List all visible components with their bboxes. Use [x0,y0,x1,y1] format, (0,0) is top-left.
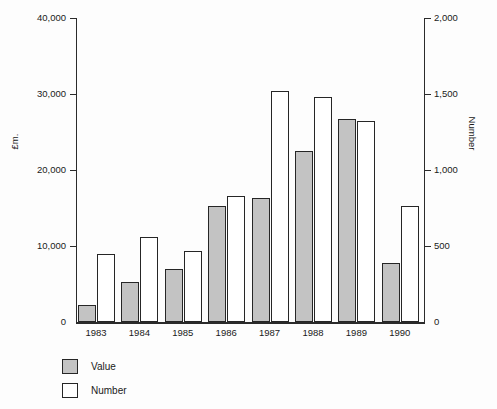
y-axis-left-title: £m. [9,120,20,164]
bar-number-1985 [184,251,202,322]
y-right-tick-1000 [425,170,431,171]
y-left-label-40000: 40,000 [14,13,66,23]
legend-item-number: Number [62,380,127,400]
bar-value-1990 [382,263,400,322]
x-axis-line [76,322,425,324]
bar-value-1986 [208,206,226,322]
bar-number-1987 [271,91,289,322]
y-left-label-0: 0 [14,317,66,327]
bar-group-1987 [251,18,289,322]
y-right-label-500: 500 [434,241,450,251]
y-left-label-10000: 10,000 [14,241,66,251]
bar-value-1985 [165,269,183,322]
legend-item-value: Value [62,356,127,376]
bar-value-1988 [295,151,313,322]
legend: Value Number [62,356,127,404]
bar-number-1988 [314,97,332,322]
x-label-1990: 1990 [372,327,428,338]
bar-number-1990 [401,206,419,322]
bar-group-1986 [207,18,245,322]
legend-swatch-value-icon [62,359,78,374]
y-axis-right-title: Number [467,106,478,162]
y-left-label-30000: 30,000 [14,89,66,99]
y-right-label-1500: 1,500 [434,89,458,99]
bar-value-1987 [252,198,270,322]
bar-number-1986 [227,196,245,322]
bar-chart: 40,000 30,000 20,000 10,000 0 2,000 1,50… [0,0,497,409]
bar-group-1983 [77,18,115,322]
bar-group-1988 [294,18,332,322]
legend-swatch-number-icon [62,383,78,398]
legend-label-number: Number [91,385,127,396]
bar-number-1984 [140,237,158,322]
bar-group-1984 [120,18,158,322]
y-right-tick-1500 [425,94,431,95]
bar-number-1983 [97,254,115,322]
y-right-tick-500 [425,246,431,247]
y-right-label-2000: 2,000 [434,13,458,23]
bar-value-1983 [78,305,96,322]
bar-value-1989 [338,119,356,322]
y-right-label-1000: 1,000 [434,165,458,175]
bar-number-1989 [357,121,375,322]
bar-group-1985 [164,18,202,322]
legend-label-value: Value [91,361,116,372]
y-right-tick-2000 [425,18,431,19]
y-right-label-0: 0 [434,317,439,327]
bar-group-1989 [337,18,375,322]
bar-group-1990 [381,18,419,322]
y-left-label-20000: 20,000 [14,165,66,175]
plot-area [76,18,425,322]
bar-value-1984 [121,282,139,322]
